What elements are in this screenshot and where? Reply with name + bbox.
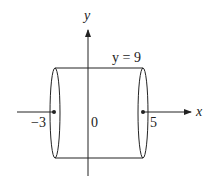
top-line-label: y = 9	[112, 50, 141, 65]
cylinder-diagram: y y = 9 −3 0 5 x	[0, 0, 213, 185]
right-point-dot	[141, 110, 145, 114]
y-axis-label: y	[82, 8, 91, 23]
origin-label: 0	[91, 115, 98, 130]
right-point-label: 5	[150, 115, 157, 130]
diagram-canvas: y y = 9 −3 0 5 x	[0, 0, 213, 185]
x-axis-label: x	[195, 104, 203, 119]
left-point-label: −3	[31, 115, 46, 130]
left-point-dot	[52, 110, 56, 114]
